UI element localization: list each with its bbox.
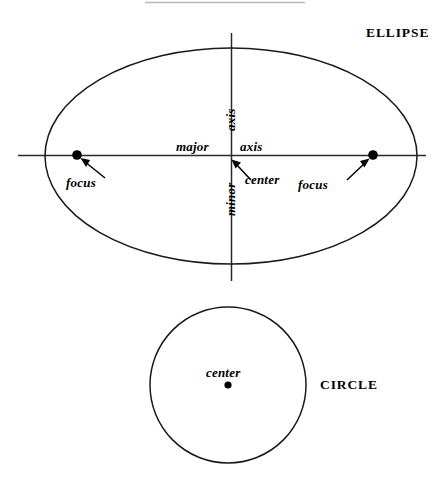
major-axis-label-word-major: major [176, 140, 209, 153]
circle-center-point [224, 381, 231, 388]
ellipse-focus-left-label: focus [66, 176, 96, 189]
ellipse-shape-label: ELLIPSE [366, 26, 429, 40]
circle-center-label: center [206, 366, 240, 379]
ellipse-focus-right-point [368, 150, 378, 160]
minor-axis-label-word-axis: axis [224, 109, 237, 131]
minor-axis-label-word-minor: minor [224, 182, 237, 216]
circle-shape-label: CIRCLE [320, 378, 378, 392]
ellipse-center-label: center [245, 173, 279, 186]
major-axis-label-word-axis: axis [240, 140, 262, 153]
ellipse-focus-left-point [72, 150, 82, 160]
diagram-canvas: ELLIPSE major axis axis minor center foc… [0, 0, 448, 482]
ellipse-focus-right-label: focus [298, 178, 328, 191]
conic-sections-figure [0, 0, 448, 482]
